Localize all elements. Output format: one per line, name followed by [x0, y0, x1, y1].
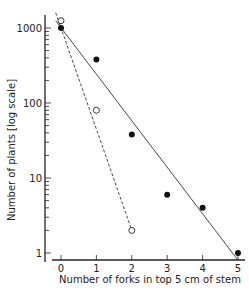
y-tick-label: 1000: [17, 23, 42, 34]
open-data-point: [129, 227, 135, 233]
filled-data-point: [200, 205, 206, 211]
filled-data-point: [93, 57, 99, 63]
open-data-point: [58, 18, 64, 24]
x-tick-label: 4: [199, 263, 205, 274]
y-tick-label: 10: [29, 173, 42, 184]
open-data-point: [93, 107, 99, 113]
x-tick-label: 1: [93, 263, 99, 274]
filled-data-point: [58, 25, 64, 31]
dashed-fit-line: [56, 13, 132, 231]
y-axis-ticks: 1101001000: [17, 23, 51, 259]
filled-data-point: [129, 132, 135, 138]
filled-data-point: [235, 250, 241, 256]
x-tick-label: 5: [235, 263, 241, 274]
y-tick-label: 1: [36, 248, 42, 259]
chart: 1101001000 012345 Number of forks in top…: [0, 0, 249, 290]
x-tick-label: 0: [58, 263, 64, 274]
x-tick-label: 2: [129, 263, 135, 274]
fit-lines: [56, 13, 238, 261]
y-tick-label: 100: [23, 98, 42, 109]
y-axis-label: Number of plants [log scale]: [6, 79, 17, 221]
solid-fit-line: [56, 21, 238, 261]
x-tick-label: 3: [164, 263, 170, 274]
data-points: [58, 18, 241, 256]
filled-data-point: [164, 192, 170, 198]
x-axis-ticks: 012345: [58, 255, 241, 274]
x-axis-label: Number of forks in top 5 cm of stem: [59, 274, 241, 285]
